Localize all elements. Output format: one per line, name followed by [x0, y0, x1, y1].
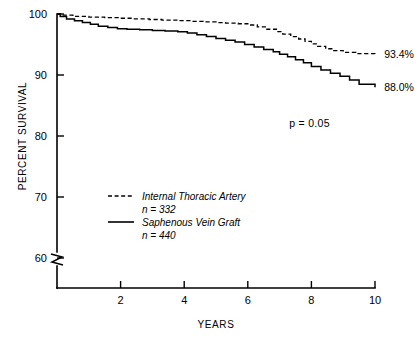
svg-endpoint: 88.0% — [384, 81, 414, 93]
x-tick-marks — [121, 281, 375, 288]
x-axis-title: YEARS — [198, 319, 235, 330]
y-tick-label: 80 — [35, 130, 47, 142]
legend-label-saphenous-vein-graft: Saphenous Vein Graft — [142, 217, 241, 228]
x-tick-label: 4 — [181, 294, 187, 306]
y-tick-label: 70 — [35, 191, 47, 203]
endpoint-labels: 93.4%88.0% — [384, 48, 414, 93]
y-tick-labels: 10090807060 — [29, 8, 47, 264]
y-axis-title: PERCENT SURVIVAL — [17, 82, 28, 191]
chart-canvas: 10090807060 PERCENT SURVIVAL 246810 YEAR… — [0, 0, 420, 341]
x-tick-label: 2 — [118, 294, 124, 306]
x-tick-label: 6 — [245, 294, 251, 306]
y-tick-marks — [57, 14, 64, 258]
survival-chart: 10090807060 PERCENT SURVIVAL 246810 YEAR… — [0, 0, 420, 341]
ita-endpoint: 93.4% — [384, 48, 414, 60]
curve-saphenous-vein-graft — [57, 14, 375, 87]
y-tick-label: 100 — [29, 8, 47, 20]
p-value-annotation: p = 0.05 — [289, 117, 330, 129]
legend-label-internal-thoracic-artery: Internal Thoracic Artery — [142, 191, 247, 202]
x-tick-labels: 246810 — [118, 294, 382, 306]
legend-n-saphenous-vein-graft: n = 440 — [142, 230, 176, 241]
series-group — [57, 14, 375, 87]
legend-n-internal-thoracic-artery: n = 332 — [142, 204, 176, 215]
x-tick-label: 10 — [369, 294, 381, 306]
y-axis-group: 10090807060 PERCENT SURVIVAL — [17, 8, 64, 288]
axis-break-icon — [51, 254, 63, 265]
curve-internal-thoracic-artery — [57, 14, 375, 54]
y-tick-label: 90 — [35, 69, 47, 81]
x-tick-label: 8 — [308, 294, 314, 306]
legend: Internal Thoracic Artery n = 332 Sapheno… — [108, 191, 247, 241]
x-axis-group: 246810 YEARS — [57, 281, 381, 330]
y-tick-label: 60 — [35, 252, 47, 264]
